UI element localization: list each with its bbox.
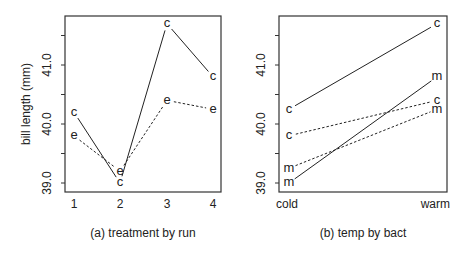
point-label-e: e xyxy=(209,101,216,116)
point-label-m: m xyxy=(284,160,295,175)
series-line-c xyxy=(122,30,165,176)
series-line-c xyxy=(172,29,209,72)
point-label-m: m xyxy=(432,101,443,116)
y-tick-label: 40.0 xyxy=(40,112,54,136)
y-tick-label: 41.0 xyxy=(40,53,54,77)
point-label-c: c xyxy=(286,127,293,142)
point-label-c: c xyxy=(434,15,441,30)
point-label-m: m xyxy=(284,174,295,189)
plot-frame xyxy=(279,16,447,192)
point-label-e: e xyxy=(163,92,170,107)
point-label-c: c xyxy=(164,15,171,30)
panel-a: 39.040.041.01234bill length (mm)(a) trea… xyxy=(19,15,221,240)
panel-b: 39.040.041.0coldwarm(b) temp by bactccmm… xyxy=(254,15,450,240)
series-line-e xyxy=(174,102,206,108)
panel-caption: (a) treatment by run xyxy=(90,226,195,240)
point-label-c: c xyxy=(71,104,78,119)
point-label-c: c xyxy=(210,68,217,83)
y-tick-label: 41.0 xyxy=(254,53,268,77)
figure: 39.040.041.01234bill length (mm)(a) trea… xyxy=(0,0,461,253)
point-label-c: c xyxy=(286,101,293,116)
series-line-c xyxy=(295,27,431,106)
panel-caption: (b) temp by bact xyxy=(320,226,407,240)
x-tick-label: 1 xyxy=(71,197,78,211)
x-tick-label: warm xyxy=(420,197,450,211)
y-axis-label: bill length (mm) xyxy=(19,63,33,145)
y-tick-label: 39.0 xyxy=(40,171,54,195)
y-tick-label: 40.0 xyxy=(254,112,268,136)
series-line-m xyxy=(296,112,431,166)
point-label-m: m xyxy=(432,68,443,83)
series-line-c xyxy=(78,118,116,177)
x-tick-label: cold xyxy=(276,197,298,211)
x-tick-label: 2 xyxy=(117,197,124,211)
point-label-e: e xyxy=(70,127,77,142)
y-tick-label: 39.0 xyxy=(254,171,268,195)
series-line-e xyxy=(124,106,163,165)
x-tick-label: 3 xyxy=(164,197,171,211)
x-tick-label: 4 xyxy=(210,197,217,211)
point-label-e: e xyxy=(116,163,123,178)
series-line-e xyxy=(80,140,115,167)
